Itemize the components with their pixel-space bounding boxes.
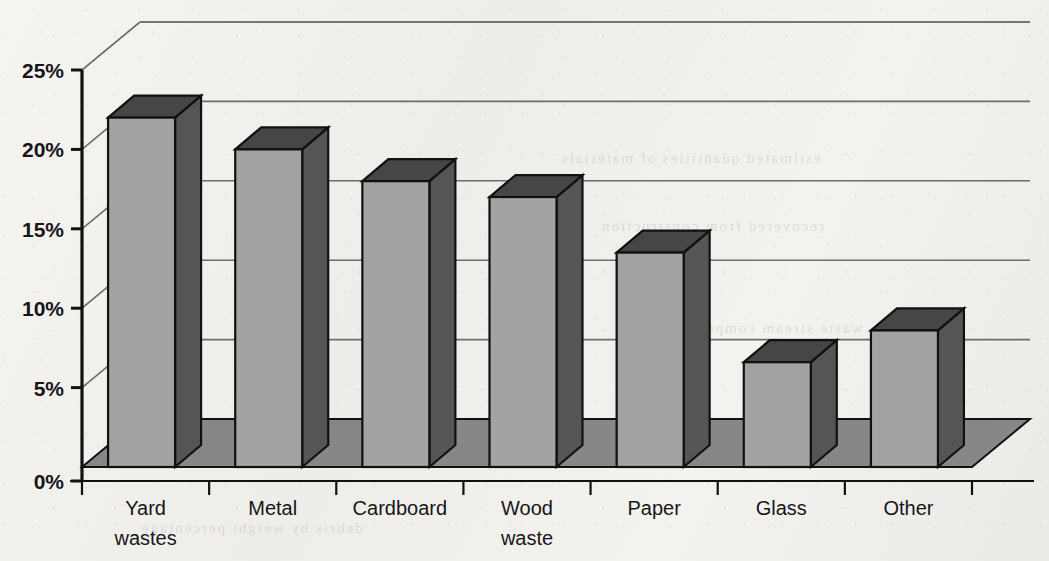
x-category-label: Glass <box>756 497 807 519</box>
bar-yard-wastes <box>108 96 201 467</box>
x-axis-ticks <box>82 481 972 495</box>
y-axis-labels: 0%5%10%15%20%25% <box>22 59 64 493</box>
y-axis-ticks <box>71 70 82 481</box>
x-axis-labels: YardwastesMetalCardboardWoodwastePaperGl… <box>113 497 933 549</box>
x-category-label: waste <box>500 527 553 549</box>
y-tick-label: 0% <box>34 470 65 493</box>
y-tick-label: 10% <box>22 297 64 320</box>
bar-paper <box>617 231 710 467</box>
y-tick-label: 5% <box>34 377 65 400</box>
bars-group <box>108 96 964 467</box>
bar-chart: 0%5%10%15%20%25% YardwastesMetalCardboar… <box>0 0 1049 561</box>
y-tick-label: 25% <box>22 59 64 82</box>
x-category-label: wastes <box>113 527 176 549</box>
x-category-label: Yard <box>125 497 166 519</box>
bar-other <box>871 308 964 467</box>
bar-cardboard <box>362 159 455 467</box>
bar-wood-waste <box>490 175 583 467</box>
x-category-label: Paper <box>627 497 681 519</box>
x-category-label: Metal <box>248 497 297 519</box>
y-tick-label: 20% <box>22 138 64 161</box>
bar-glass <box>744 340 837 467</box>
y-tick-label: 15% <box>22 218 64 241</box>
bar-metal <box>235 127 328 467</box>
x-category-label: Wood <box>501 497 553 519</box>
x-category-label: Other <box>883 497 933 519</box>
x-category-label: Cardboard <box>353 497 448 519</box>
